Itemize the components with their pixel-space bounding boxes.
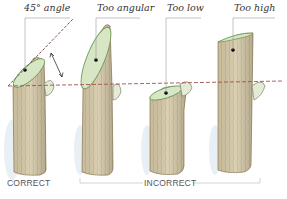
bud [180, 82, 192, 96]
bud [44, 80, 54, 96]
stem-too-low [148, 82, 192, 175]
pruning-illustration [0, 0, 287, 199]
label-too-low: Too low [167, 2, 204, 13]
stem-too-high [218, 33, 265, 173]
stem-too-angular [75, 24, 121, 175]
caption-correct: CORRECT [7, 178, 50, 188]
label-too-angular: Too angular [97, 2, 154, 13]
bud [252, 82, 265, 100]
bud [113, 84, 121, 100]
label-too-high: Too high [234, 2, 275, 13]
pruning-diagram: 45° angle Too angular Too low Too high C… [0, 0, 287, 199]
caption-incorrect: INCORRECT [144, 178, 196, 188]
stem-correct [9, 54, 54, 175]
label-45-degree-angle: 45° angle [24, 2, 70, 13]
